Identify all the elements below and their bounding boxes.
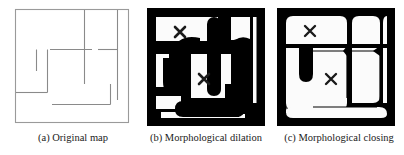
- free-region-top-right: [383, 16, 387, 44]
- morphology-figure: (a) Original map (b) Morphological dilat…: [0, 0, 404, 155]
- free-region-top-right: [231, 17, 250, 40]
- panel-morphological-dilation: [147, 8, 265, 126]
- free-region-center-left: [286, 48, 347, 110]
- free-region-center-right: [352, 48, 380, 103]
- free-region-top-left: [286, 16, 347, 44]
- wall-blob-bottom-right-column: [231, 68, 245, 114]
- wall-blob-center-tip: [207, 68, 221, 96]
- caption-original-map: (a) Original map: [14, 131, 132, 145]
- panel-original-map: [14, 8, 132, 126]
- wall-bar-left: [299, 46, 313, 82]
- dilation-image: [147, 8, 265, 126]
- free-region-right-sliver: [253, 17, 257, 103]
- free-region-bottom: [286, 107, 387, 118]
- wall-blob-right-bar-top: [231, 39, 246, 54]
- original-map-drawing: [14, 8, 132, 126]
- panel-a-background: [14, 8, 132, 126]
- figure-captions: (a) Original map (b) Morphological dilat…: [0, 131, 404, 151]
- caption-morphological-dilation: (b) Morphological dilation: [137, 131, 275, 145]
- closing-image: [277, 8, 395, 126]
- closing-wall-blobs: [299, 46, 313, 82]
- caption-morphological-closing: (c) Morphological closing: [275, 131, 403, 145]
- free-region-right-sliver: [383, 48, 387, 103]
- free-region-top-middle: [352, 16, 380, 44]
- panel-morphological-closing: [277, 8, 395, 126]
